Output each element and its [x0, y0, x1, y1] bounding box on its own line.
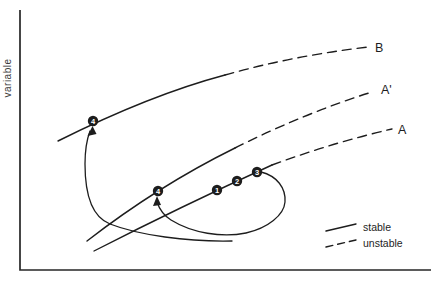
state-points: 12344 [88, 116, 262, 196]
curve-A-label: A [398, 123, 407, 137]
curve-B-stable [58, 75, 225, 141]
curve-A-stable [94, 165, 272, 251]
curve-B-label: B [375, 41, 383, 55]
stability-diagram: variable B A' A 12344 stable unstable [0, 0, 433, 284]
diagram-canvas: variable B A' A 12344 stable unstable [0, 0, 433, 284]
legend-stable-label: stable [363, 221, 391, 233]
legend-unstable-line [326, 240, 356, 247]
legend-unstable-label: unstable [363, 237, 403, 249]
curve-A-unstable [272, 129, 392, 165]
state-point-number: 2 [235, 177, 239, 186]
transition-arrow-3-to-4 [157, 172, 285, 235]
legend-stable-line [326, 224, 356, 231]
curve-B-unstable [225, 47, 368, 75]
curve-A-prime-label: A' [381, 83, 392, 97]
transition-arrowhead-3-to-4 [153, 196, 161, 206]
y-axis-label: variable [2, 58, 13, 97]
legend: stable unstable [326, 221, 403, 249]
state-point-number: 3 [255, 168, 259, 177]
state-point-number: 1 [215, 186, 219, 195]
transition-arrowhead-to-4B [88, 126, 97, 136]
